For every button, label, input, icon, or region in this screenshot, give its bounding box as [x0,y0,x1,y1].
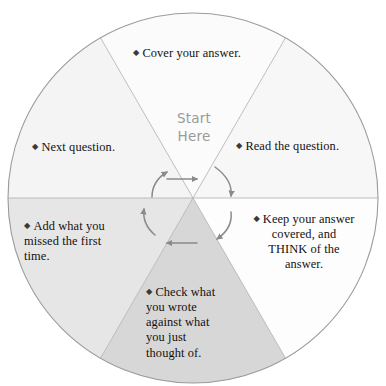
segment-label-next-question: ◆Next question. [32,140,182,155]
segment-text-read: Read the question. [245,139,339,153]
bullet-icon-read: ◆ [236,140,242,150]
segment-label-read-the-question: ◆Read the question. [236,139,386,154]
segment-text-next: Next question. [41,140,115,154]
study-cycle-wheel: Start Here ◆Cover your answer. ◆Read the… [0,0,386,386]
segment-text-cover: Cover your answer. [142,46,241,60]
segment-label-add-what-you-missed: ◆Add what you missed the first time. [24,219,156,264]
segment-label-keep-answer-covered: ◆Keep your answer covered, and THINK of … [238,212,370,273]
segment-label-cover-your-answer: ◆Cover your answer. [133,46,313,61]
bullet-icon-add: ◆ [24,220,30,230]
bullet-icon-keep: ◆ [253,213,259,223]
segment-text-keep: Keep your answer covered, and THINK of t… [263,212,355,271]
bullet-icon-next: ◆ [32,141,38,151]
segment-text-check: Check what you wrote against what you ju… [146,285,215,360]
segment-label-check-what-you-wrote: ◆Check what you wrote against what you j… [146,285,264,361]
segment-text-add: Add what you missed the first time. [24,219,105,263]
bullet-icon-cover: ◆ [133,47,139,57]
bullet-icon-check: ◆ [146,286,152,296]
